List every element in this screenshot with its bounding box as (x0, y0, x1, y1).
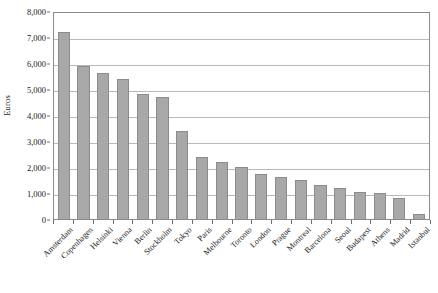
bar-slot (370, 13, 390, 219)
bar (393, 198, 405, 219)
bar-slot (311, 13, 331, 219)
bar-chart: Euros 01,0002,0003,0004,0005,0006,0007,0… (0, 0, 438, 293)
bar-slot (330, 13, 350, 219)
bar-slot (54, 13, 74, 219)
y-axis-tick-label: 7,000 (27, 34, 46, 43)
y-axis-tick-mark (47, 220, 50, 221)
y-axis-tick-mark (47, 90, 50, 91)
y-axis-tick-label: 3,000 (27, 138, 46, 147)
bar-slot (172, 13, 192, 219)
x-axis-tick-mark (430, 220, 431, 224)
bar-slot (153, 13, 173, 219)
bar (216, 162, 228, 219)
bar-slot (409, 13, 429, 219)
y-axis-tick-label: 8,000 (27, 8, 46, 17)
y-axis-tick-label: 6,000 (27, 60, 46, 69)
bar (374, 193, 386, 219)
bar-slot (291, 13, 311, 219)
bar (275, 177, 287, 219)
y-axis-tick-label: 0 (42, 216, 46, 225)
bar-slot (113, 13, 133, 219)
bar-slot (133, 13, 153, 219)
y-axis-tick-labels: 01,0002,0003,0004,0005,0006,0007,0008,00… (14, 12, 50, 220)
y-axis-tick-mark (47, 142, 50, 143)
y-axis-tick-mark (47, 64, 50, 65)
y-axis-tick-mark (47, 116, 50, 117)
y-axis-tick-mark (47, 12, 50, 13)
bar-slot (271, 13, 291, 219)
bar (176, 131, 188, 219)
y-axis-tick-mark (47, 194, 50, 195)
bar (137, 94, 149, 219)
y-axis-tick-label: 1,000 (27, 190, 46, 199)
bar (314, 185, 326, 219)
bar-slot (212, 13, 232, 219)
x-axis-category-label: Vienna (112, 226, 134, 248)
x-axis-category-label: Toronto (229, 226, 253, 250)
y-axis-tick-label: 4,000 (27, 112, 46, 121)
bar (354, 192, 366, 219)
bar (235, 167, 247, 219)
bar (255, 174, 267, 220)
bar (77, 66, 89, 219)
bar (156, 97, 168, 219)
bar-slot (251, 13, 271, 219)
bar (117, 79, 129, 219)
bar-slot (389, 13, 409, 219)
bars-container (54, 13, 429, 219)
bar-slot (350, 13, 370, 219)
bar-slot (232, 13, 252, 219)
x-axis-category-label: Istanbul (407, 226, 431, 250)
bar (58, 32, 70, 219)
bar-slot (192, 13, 212, 219)
y-axis-tick-mark (47, 38, 50, 39)
bar (295, 180, 307, 219)
x-axis-category-labels: AmsterdamCopenhagenHelsinkiViennaBerlinS… (53, 224, 430, 290)
y-axis-tick-label: 2,000 (27, 164, 46, 173)
x-axis-category-label: Athens (370, 226, 392, 248)
x-axis-category-label: London (249, 226, 273, 250)
bar-slot (74, 13, 94, 219)
y-axis-tick-mark (47, 168, 50, 169)
x-axis-category-label: Tokyo (173, 226, 194, 247)
y-axis-tick-label: 5,000 (27, 86, 46, 95)
bar (334, 188, 346, 219)
plot-area (53, 12, 430, 220)
bar (196, 157, 208, 219)
bar-slot (93, 13, 113, 219)
bar (97, 73, 109, 219)
bar (413, 214, 425, 219)
